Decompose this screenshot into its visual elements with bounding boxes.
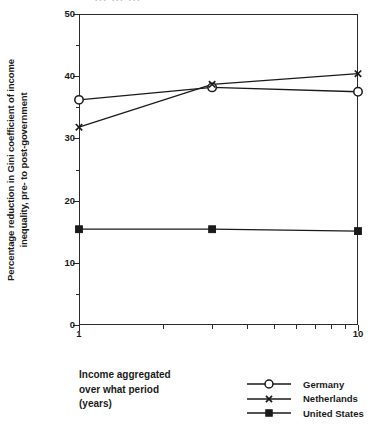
x-axis-title: Income aggregated over what period (year… [79, 368, 249, 412]
plot-area: 01020304050110 [79, 14, 358, 325]
legend-item[interactable]: Germany [245, 377, 380, 392]
x-tick-minor [247, 325, 248, 329]
y-tick-label: 20 [15, 195, 75, 206]
x-axis-title-line-3: (years) [79, 397, 249, 412]
marker-filled-square [209, 226, 216, 233]
x-tick-minor [331, 325, 332, 329]
y-tick-label: 30 [15, 132, 75, 143]
legend-item[interactable]: United States [245, 406, 380, 421]
marker-open-circle [354, 88, 362, 96]
x-axis-title-line-1: Income aggregated [79, 368, 249, 383]
legend-label: Netherlands [293, 393, 358, 404]
series-layer [79, 14, 358, 325]
x-tick-minor [345, 325, 346, 329]
legend-key-filled-square-icon [245, 406, 293, 420]
marker-filled-square [266, 410, 272, 416]
legend-item[interactable]: Netherlands [245, 392, 380, 407]
x-tick-minor [274, 325, 275, 329]
x-tick-minor [315, 325, 316, 329]
x-tick-minor [212, 325, 213, 329]
y-axis-title: Percentage reduction in Gini coefficient… [0, 0, 34, 340]
chart-legend: GermanyNetherlandsUnited States [245, 377, 380, 421]
legend-label: United States [293, 408, 364, 419]
y-axis-title-line-1: Percentage reduction in Gini coefficient… [4, 4, 17, 336]
series-line-netherlands [79, 74, 358, 127]
marker-open-circle [75, 96, 83, 104]
x-tick-minor [163, 325, 164, 329]
x-tick-label: 1 [59, 328, 99, 339]
x-tick-label: 10 [338, 328, 378, 339]
marker-cross [76, 124, 82, 130]
y-tick-label: 10 [15, 257, 75, 268]
x-axis-title-line-2: over what period [79, 383, 249, 398]
legend-key-cross-icon [245, 392, 293, 406]
y-tick-label: 40 [15, 70, 75, 81]
legend-key-open-circle-icon [245, 377, 293, 391]
marker-filled-square [355, 228, 362, 235]
series-line-germany [79, 87, 358, 99]
x-tick-minor [296, 325, 297, 329]
y-axis-title-line-2: inequality, pre- to post-government [17, 4, 30, 336]
marker-open-circle [265, 380, 273, 388]
chart-figure: Percentage reduction in Gini coefficient… [0, 0, 382, 431]
legend-label: Germany [293, 379, 344, 390]
series-line-united-states [79, 229, 358, 231]
y-tick-label: 50 [15, 8, 75, 19]
marker-filled-square [76, 226, 83, 233]
